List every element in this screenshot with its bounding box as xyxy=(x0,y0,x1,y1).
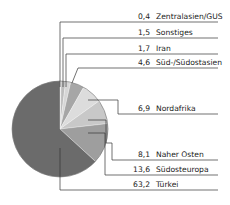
label-zentralasien: Zentralasien/GUS xyxy=(156,12,223,21)
value-zentralasien: 0,4 xyxy=(138,12,150,21)
slice-labels: 0,4 Zentralasien/GUS 1,5 Sonstiges 1,7 I… xyxy=(133,12,223,189)
leader-line xyxy=(72,68,218,83)
label-sonstiges: Sonstiges xyxy=(156,28,193,37)
leader-line xyxy=(88,100,218,114)
value-sonstiges: 1,5 xyxy=(138,28,150,37)
label-naher-osten: Naher Osten xyxy=(156,150,204,159)
value-sued-suedostasien: 4,6 xyxy=(138,58,150,67)
label-suedosteuropa: Südosteuropa xyxy=(156,165,209,174)
value-iran: 1,7 xyxy=(138,44,150,53)
label-sued-suedostasien: Süd-/Südostasien xyxy=(156,58,222,67)
value-nordafrika: 6,9 xyxy=(138,104,150,113)
value-naher-osten: 8,1 xyxy=(138,150,150,159)
label-iran: Iran xyxy=(156,44,171,53)
value-tuerkei: 63,2 xyxy=(133,180,150,189)
pie-chart: 0,4 Zentralasien/GUS 1,5 Sonstiges 1,7 I… xyxy=(0,0,230,205)
value-suedosteuropa: 13,6 xyxy=(133,165,150,174)
label-tuerkei: Türkei xyxy=(155,180,178,189)
label-nordafrika: Nordafrika xyxy=(156,104,196,113)
